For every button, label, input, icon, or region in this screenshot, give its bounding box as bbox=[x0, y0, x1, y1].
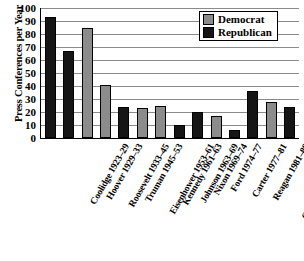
bar bbox=[174, 125, 185, 138]
bar bbox=[211, 116, 222, 138]
y-tick-label: 100 bbox=[20, 3, 37, 14]
y-tick-label: 30 bbox=[25, 94, 36, 105]
bar-slot bbox=[133, 8, 151, 138]
press-conferences-bar-chart: Press Conferences per Year 0102030405060… bbox=[0, 0, 304, 261]
bar bbox=[192, 112, 203, 138]
y-tick-label: 80 bbox=[25, 29, 36, 40]
bar-slot bbox=[280, 8, 298, 138]
legend: Democrat Republican bbox=[199, 11, 278, 41]
bar bbox=[229, 130, 240, 138]
bar bbox=[45, 17, 56, 138]
bar bbox=[63, 51, 74, 138]
bar-slot bbox=[170, 8, 188, 138]
y-tick-label: 0 bbox=[31, 133, 37, 144]
y-tick-label: 10 bbox=[25, 120, 36, 131]
legend-item-republican: Republican bbox=[203, 27, 272, 39]
bar bbox=[137, 108, 148, 138]
legend-label-democrat: Democrat bbox=[218, 14, 264, 26]
bar bbox=[266, 102, 277, 138]
y-axis-tick-labels: 0102030405060708090100 bbox=[14, 8, 36, 138]
legend-swatch-republican-icon bbox=[203, 27, 214, 38]
bar bbox=[100, 85, 111, 138]
bar-slot bbox=[115, 8, 133, 138]
y-tick-label: 40 bbox=[25, 81, 36, 92]
y-tick-label: 20 bbox=[25, 107, 36, 118]
bar-slot bbox=[152, 8, 170, 138]
x-axis-category-labels: Coolidge 1923–29Hoover 1929–33Roosevelt … bbox=[40, 140, 298, 258]
bar-slot bbox=[96, 8, 114, 138]
bar bbox=[82, 28, 93, 139]
bar-slot bbox=[41, 8, 59, 138]
bar bbox=[118, 107, 129, 138]
bar bbox=[155, 106, 166, 139]
y-tick-label: 60 bbox=[25, 55, 36, 66]
legend-swatch-democrat-icon bbox=[203, 14, 214, 25]
legend-label-republican: Republican bbox=[218, 27, 272, 39]
bar-slot bbox=[59, 8, 77, 138]
y-tick-label: 70 bbox=[25, 42, 36, 53]
bar bbox=[284, 107, 295, 138]
y-tick-label: 90 bbox=[25, 16, 36, 27]
bar bbox=[247, 91, 258, 138]
legend-item-democrat: Democrat bbox=[203, 14, 272, 26]
y-tick-label: 50 bbox=[25, 68, 36, 79]
bar-slot bbox=[78, 8, 96, 138]
